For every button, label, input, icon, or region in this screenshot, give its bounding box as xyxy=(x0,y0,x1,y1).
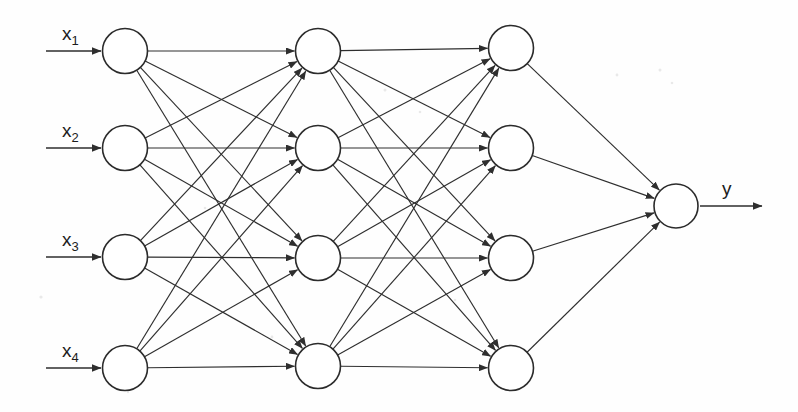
input-label-subscript-x4: 4 xyxy=(72,350,79,365)
input-node-x1[interactable] xyxy=(103,29,148,74)
hidden1-node-h1_2[interactable] xyxy=(296,126,341,171)
output-label: y xyxy=(722,178,732,199)
edge-x4-h1_3 xyxy=(145,270,298,357)
labels: x1x2x3x4y xyxy=(62,23,732,365)
input-label-subscript-x3: 3 xyxy=(72,239,79,254)
scan-speck xyxy=(419,111,422,114)
scan-speck xyxy=(271,336,274,339)
input-label-x4: x4 xyxy=(62,340,79,365)
hidden2-node-h2_4[interactable] xyxy=(489,346,534,391)
edge-x1-h1_4 xyxy=(137,70,306,346)
input-node-x4[interactable] xyxy=(103,346,148,391)
scan-speck xyxy=(384,89,387,92)
scan-speck xyxy=(454,299,457,302)
hidden2-node-h2_1[interactable] xyxy=(489,26,534,71)
hidden1-node-h1_3[interactable] xyxy=(296,236,341,281)
network-canvas: x1x2x3x4y xyxy=(0,0,798,412)
input-label-subscript-x2: 2 xyxy=(72,130,79,145)
hidden2-node-h2_3[interactable] xyxy=(489,236,534,281)
edge-h1_4-h2_4 xyxy=(340,366,487,368)
input-label-x3: x3 xyxy=(62,229,79,254)
input-label-x1: x1 xyxy=(62,23,79,48)
neural-network-diagram: x1x2x3x4y xyxy=(0,0,798,412)
input-label-x2: x2 xyxy=(62,120,79,145)
edge-x2-h1_4 xyxy=(140,165,303,349)
input-node-x2[interactable] xyxy=(103,126,148,171)
hidden2-node-h2_2[interactable] xyxy=(489,126,534,171)
edges-hidden1-to-hidden2 xyxy=(330,48,499,367)
edge-h2_2-y xyxy=(532,155,654,198)
scan-speck xyxy=(39,295,42,298)
edges-hidden2-to-output xyxy=(527,64,660,353)
edge-x4-h1_2 xyxy=(140,166,303,351)
edge-x3-h1_4 xyxy=(145,268,298,354)
nodes xyxy=(103,26,699,391)
hidden1-node-h1_4[interactable] xyxy=(296,344,341,389)
edge-h2_1-y xyxy=(527,64,659,191)
scan-speck xyxy=(616,74,619,77)
input-node-x3[interactable] xyxy=(103,235,148,280)
scan-speck xyxy=(204,207,207,210)
edge-x4-h1_1 xyxy=(137,71,306,349)
edge-h1_4-h2_1 xyxy=(330,68,499,347)
edge-h2_4-y xyxy=(527,222,660,352)
scan-speck xyxy=(659,69,662,72)
edges-input-to-hidden1 xyxy=(137,51,306,368)
edge-h1_1-h2_4 xyxy=(330,70,499,348)
edge-x4-h1_4 xyxy=(147,366,294,368)
output-node-y[interactable] xyxy=(654,184,698,228)
input-label-subscript-x1: 1 xyxy=(72,33,79,48)
edge-h1_1-h2_1 xyxy=(340,48,487,50)
hidden1-node-h1_1[interactable] xyxy=(296,29,341,74)
scan-speck xyxy=(671,82,674,85)
